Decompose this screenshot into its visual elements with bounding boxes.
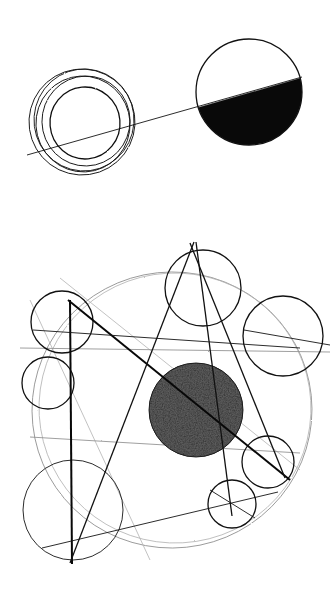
artwork-canvas xyxy=(0,0,336,597)
artboard xyxy=(0,0,336,597)
